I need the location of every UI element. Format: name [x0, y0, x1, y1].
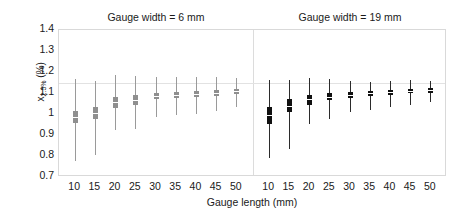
x-tick-label: 35 — [164, 180, 186, 192]
x-axis-tick-group: 101520253035404550101520253035404550 — [58, 180, 446, 194]
y-tick-label: 0.8 — [39, 149, 54, 160]
x-axis-label: Gauge length (mm) — [58, 196, 446, 208]
y-tick-label: 1.1 — [39, 86, 54, 97]
boxplot-gauge-width-19mm-40[interactable] — [382, 30, 398, 175]
median-line — [154, 96, 159, 97]
x-tick-label: 40 — [184, 180, 206, 192]
panel-title: Gauge width = 6 mm — [59, 11, 253, 23]
median-line — [214, 93, 219, 94]
boxplot-gauge-width-6mm-40[interactable] — [188, 30, 204, 175]
boxplot-gauge-width-19mm-35[interactable] — [362, 30, 378, 175]
median-line — [133, 100, 138, 101]
x-tick-label: 50 — [419, 180, 441, 192]
x-tick-label: 15 — [277, 180, 299, 192]
x-tick-label: 30 — [338, 180, 360, 192]
panel-gauge-width-19mm: Gauge width = 19 mm — [253, 30, 447, 175]
boxplot-gauge-width-19mm-50[interactable] — [423, 30, 439, 175]
y-tick-label: 1.4 — [39, 23, 54, 34]
boxplot-gauge-width-6mm-30[interactable] — [148, 30, 164, 175]
x-tick-label: 25 — [318, 180, 340, 192]
boxplot-gauge-width-19mm-25[interactable] — [322, 30, 338, 175]
boxplot-gauge-width-19mm-30[interactable] — [342, 30, 358, 175]
x-tick-label: 30 — [144, 180, 166, 192]
boxplot-gauge-width-6mm-50[interactable] — [229, 30, 245, 175]
y-tick-label: 1 — [48, 107, 54, 118]
median-line — [194, 94, 199, 95]
y-tick-label: 1.3 — [39, 44, 54, 55]
boxplot-gauge-width-6mm-35[interactable] — [168, 30, 184, 175]
median-line — [408, 91, 413, 92]
x-tick-label: 45 — [205, 180, 227, 192]
y-tick-label-group: 0.70.80.911.11.21.31.4 — [22, 0, 54, 218]
y-tick-label: 0.7 — [39, 170, 54, 181]
median-line — [307, 99, 312, 100]
y-tick-label: 0.9 — [39, 128, 54, 139]
boxplot-gauge-width-6mm-20[interactable] — [108, 30, 124, 175]
x-tick-label: 15 — [83, 180, 105, 192]
median-line — [388, 92, 393, 93]
boxplot-gauge-width-19mm-45[interactable] — [403, 30, 419, 175]
x-tick-label: 10 — [257, 180, 279, 192]
boxplot-gauge-width-6mm-10[interactable] — [67, 30, 83, 175]
boxplot-gauge-width-6mm-25[interactable] — [128, 30, 144, 175]
x-tick-label: 50 — [225, 180, 247, 192]
x-tick-label: 20 — [104, 180, 126, 192]
boxplot-gauge-width-6mm-45[interactable] — [209, 30, 225, 175]
x-tick-label: 20 — [298, 180, 320, 192]
median-line — [93, 113, 98, 114]
median-line — [234, 91, 239, 92]
boxplot-gauge-width-19mm-20[interactable] — [302, 30, 318, 175]
boxplot-gauge-width-19mm-15[interactable] — [281, 30, 297, 175]
y-tick-label: 1.2 — [39, 65, 54, 76]
panel-title: Gauge width = 19 mm — [253, 11, 447, 23]
boxplot-figure: x2.5% (%) 0.70.80.911.11.21.31.4 Gauge w… — [0, 0, 452, 218]
median-line — [73, 117, 78, 118]
median-line — [327, 97, 332, 98]
median-line — [113, 102, 118, 103]
median-line — [368, 93, 373, 94]
whisker-line — [289, 80, 290, 148]
panel-gauge-width-6mm: Gauge width = 6 mm — [59, 30, 253, 175]
boxplot-gauge-width-19mm-10[interactable] — [261, 30, 277, 175]
x-tick-label: 40 — [378, 180, 400, 192]
x-tick-label: 10 — [63, 180, 85, 192]
median-line — [287, 106, 292, 107]
x-tick-label: 45 — [399, 180, 421, 192]
median-line — [428, 90, 433, 91]
median-line — [348, 95, 353, 96]
plot-area: Gauge width = 6 mmGauge width = 19 mm — [58, 29, 446, 176]
median-line — [267, 115, 272, 116]
x-tick-label: 25 — [124, 180, 146, 192]
boxplot-gauge-width-6mm-15[interactable] — [87, 30, 103, 175]
median-line — [174, 95, 179, 96]
x-tick-label: 35 — [358, 180, 380, 192]
